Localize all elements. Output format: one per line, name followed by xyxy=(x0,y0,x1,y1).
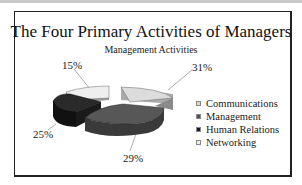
legend-item-management: Management xyxy=(196,110,279,123)
legend-swatch xyxy=(196,127,201,132)
legend-item-networking: Networking xyxy=(196,136,279,149)
label-human-relations: 25% xyxy=(33,128,53,140)
legend-swatch xyxy=(196,101,201,106)
label-communications: 31% xyxy=(192,61,212,73)
legend-swatch xyxy=(196,140,201,145)
label-management: 29% xyxy=(123,152,143,164)
legend-label: Management xyxy=(206,111,261,122)
legend-label: Networking xyxy=(206,137,256,148)
pie-chart xyxy=(0,0,302,185)
legend-item-human-relations: Human Relations xyxy=(196,123,279,136)
label-networking: 15% xyxy=(62,59,82,71)
legend-item-communications: Communications xyxy=(196,97,279,110)
legend-swatch xyxy=(196,114,201,119)
legend: Communications Management Human Relation… xyxy=(196,97,279,149)
legend-label: Communications xyxy=(206,98,278,109)
legend-label: Human Relations xyxy=(206,124,279,135)
